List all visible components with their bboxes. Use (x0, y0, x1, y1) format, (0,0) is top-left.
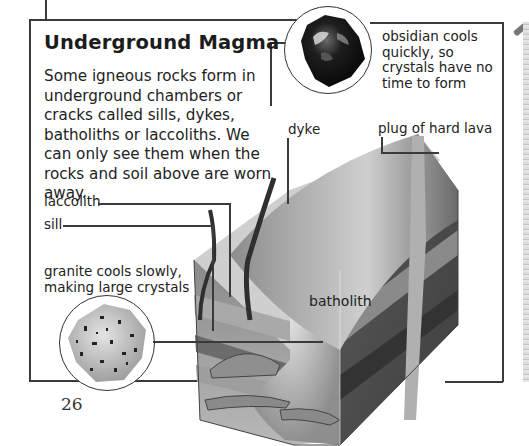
obsidian-specimen (284, 6, 372, 94)
laccolith-label: laccolith (44, 193, 100, 209)
granite-leader (153, 341, 323, 343)
sill-leader-h (63, 225, 213, 227)
plug-label: plug of hard lava (378, 120, 492, 136)
granite-rock-icon (60, 296, 154, 390)
granite-caption: granite cools slowly, making large cryst… (44, 264, 194, 295)
laccolith-leader-v (229, 203, 231, 297)
frame-bottom-line-right (135, 380, 197, 382)
sill-label: sill (44, 216, 62, 232)
frame-left-line (29, 19, 31, 381)
right-frame-top (370, 22, 503, 24)
page-title: Underground Magma (44, 31, 279, 54)
page-number: 26 (61, 394, 83, 414)
sill-leader-v (212, 225, 214, 331)
frame-bottom-line-left (29, 380, 79, 382)
right-frame-right (502, 22, 504, 382)
granite-specimen (59, 295, 155, 391)
magma-cross-section-diagram (190, 120, 460, 446)
plug-leader-v (381, 137, 383, 153)
decorative-border-strip (523, 22, 529, 382)
top-connector-line (45, 0, 47, 20)
obsidian-rock-icon (285, 7, 371, 93)
laccolith-leader-h (98, 203, 230, 205)
obsidian-caption: obsidian cools quickly, so crystals have… (382, 29, 500, 91)
dyke-leader (287, 138, 289, 204)
batholith-label: batholith (309, 293, 372, 309)
plug-leader-h (381, 152, 439, 154)
frame-top-line (29, 19, 329, 21)
dyke-label: dyke (288, 121, 320, 137)
